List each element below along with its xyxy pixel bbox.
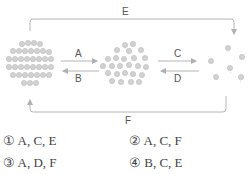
gas-particles [208,45,246,83]
phase-change-diagram: E F A B C D [0,0,252,130]
choice-1[interactable]: ① A, C, E [3,133,57,149]
choice-text: A, C, F [144,133,182,148]
label-a: A [75,48,82,59]
choice-marker: ④ [129,155,141,170]
choice-marker: ② [129,133,141,148]
liquid-particles [100,41,148,84]
label-b: B [75,73,82,84]
choice-marker: ① [3,133,15,148]
label-d: D [174,73,181,84]
choice-3[interactable]: ③ A, D, F [3,155,57,171]
label-e: E [122,6,129,17]
arrow-f [30,96,226,112]
label-c: C [174,48,181,59]
choice-marker: ③ [3,155,15,170]
choice-text: A, C, E [18,133,57,148]
choice-text: B, C, E [144,155,182,170]
label-f: F [125,115,131,126]
choice-4[interactable]: ④ B, C, E [129,155,183,171]
arrow-e [30,19,234,34]
choice-2[interactable]: ② A, C, F [129,133,182,149]
solid-particles [6,40,53,85]
choice-text: A, D, F [18,155,57,170]
